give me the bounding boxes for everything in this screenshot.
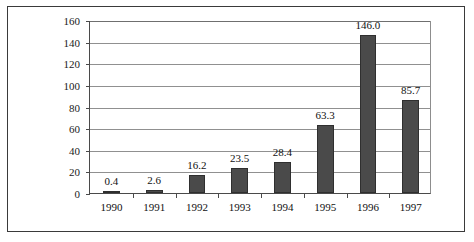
x-axis-tick-mark <box>261 193 262 198</box>
bar-value-label: 85.7 <box>389 85 432 96</box>
x-axis-tick-mark <box>133 193 134 198</box>
x-axis-tick-mark <box>389 193 390 198</box>
bar-value-label: 146.0 <box>347 20 390 31</box>
y-axis-tick-label: 20 <box>69 167 80 178</box>
y-axis-tick-label: 80 <box>69 102 80 113</box>
chart-figure-frame: 020406080100120140160 0.42.616.223.528.4… <box>7 6 465 232</box>
bar-group: 85.7 <box>389 21 432 193</box>
y-axis-tick-label: 0 <box>75 189 81 200</box>
bar-value-label: 63.3 <box>304 110 347 121</box>
bar-group: 28.4 <box>261 21 304 193</box>
plot-area: 020406080100120140160 0.42.616.223.528.4… <box>89 21 431 194</box>
bar-value-label: 0.4 <box>90 176 133 187</box>
bar[interactable] <box>274 162 291 193</box>
bar[interactable] <box>231 168 248 193</box>
x-axis-tick-label: 1993 <box>218 202 261 213</box>
y-axis-tick-mark <box>86 194 90 195</box>
x-axis-tick-label: 1990 <box>90 202 133 213</box>
x-axis-tick-label: 1992 <box>176 202 219 213</box>
bar-group: 2.6 <box>133 21 176 193</box>
y-axis-tick-label: 160 <box>64 16 81 27</box>
y-axis-tick-label: 100 <box>64 80 81 91</box>
bar-series: 0.42.616.223.528.463.3146.085.7 <box>90 21 430 193</box>
x-axis-tick-mark <box>176 193 177 198</box>
bar[interactable] <box>402 100 419 193</box>
x-axis-tick-mark <box>218 193 219 198</box>
x-axis-tick-label: 1996 <box>347 202 390 213</box>
x-axis-tick-label: 1997 <box>389 202 432 213</box>
y-axis-tick-label: 140 <box>64 37 81 48</box>
bar-value-label: 23.5 <box>218 153 261 164</box>
y-axis-tick-label: 60 <box>69 124 80 135</box>
y-axis-tick-label: 40 <box>69 145 80 156</box>
bar[interactable] <box>146 190 163 193</box>
bar-group: 0.4 <box>90 21 133 193</box>
bar-group: 146.0 <box>347 21 390 193</box>
bar-group: 23.5 <box>218 21 261 193</box>
x-axis-tick-label: 1994 <box>261 202 304 213</box>
x-axis-tick-mark <box>304 193 305 198</box>
bar-value-label: 16.2 <box>176 160 219 171</box>
bar[interactable] <box>360 35 377 193</box>
bar-group: 16.2 <box>176 21 219 193</box>
bar[interactable] <box>103 191 120 193</box>
x-axis-tick-mark <box>347 193 348 198</box>
y-axis-tick-label: 120 <box>64 59 81 70</box>
bar-group: 63.3 <box>304 21 347 193</box>
x-axis-tick-label: 1991 <box>133 202 176 213</box>
x-axis-tick-label: 1995 <box>304 202 347 213</box>
bar[interactable] <box>189 175 206 193</box>
bar[interactable] <box>317 125 334 193</box>
bar-value-label: 28.4 <box>261 147 304 158</box>
bar-value-label: 2.6 <box>133 175 176 186</box>
